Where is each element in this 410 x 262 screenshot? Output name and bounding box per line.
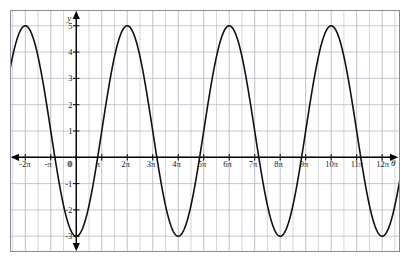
x-tick-label: 7π: [249, 159, 258, 169]
y-tick-label: -1: [65, 179, 72, 189]
chart-figure: -2π-π0π2π3π4π5π6π7π8π9π10π11π12π 543210-…: [0, 0, 410, 262]
y-tick-label: 0: [67, 159, 71, 169]
y-tick-label: 3: [68, 73, 72, 83]
y-axis-label: y: [66, 13, 71, 23]
x-tick-label: 3π: [147, 159, 156, 169]
x-tick-label: 6π: [223, 159, 232, 169]
x-tick-label: -π: [45, 159, 53, 169]
y-tick-label: -2: [65, 205, 72, 215]
graph-svg: -2π-π0π2π3π4π5π6π7π8π9π10π11π12π 543210-…: [10, 10, 400, 252]
x-tick-label: 10π: [325, 159, 339, 169]
x-tick-label: 4π: [172, 159, 181, 169]
x-tick-label: 8π: [274, 159, 283, 169]
x-axis-label: θ: [391, 158, 396, 168]
x-tick-label: -2π: [19, 159, 31, 169]
y-tick-label: 2: [68, 100, 72, 110]
x-tick-label: 2π: [121, 159, 130, 169]
y-tick-label: 4: [68, 47, 73, 57]
x-tick-label: 12π: [376, 159, 390, 169]
y-tick-label: 1: [68, 126, 72, 136]
plot-area: -2π-π0π2π3π4π5π6π7π8π9π10π11π12π 543210-…: [10, 10, 400, 252]
